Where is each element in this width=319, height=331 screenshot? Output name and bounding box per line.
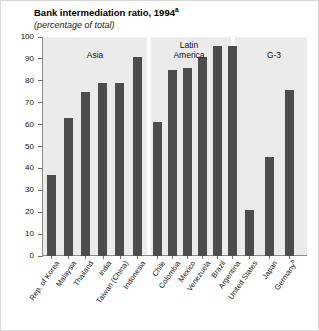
group-label-g3: G-3 <box>241 50 307 60</box>
x-axis-tick-mark <box>51 256 52 259</box>
bar <box>213 46 222 256</box>
y-axis-tick-label: 40 <box>25 163 34 173</box>
bar <box>265 157 274 256</box>
y-axis-tick-mark <box>38 80 43 81</box>
y-axis-tick-mark <box>38 124 43 125</box>
y-axis-tick-mark <box>38 168 43 169</box>
group-label-latin-america: Latin America <box>151 40 227 60</box>
bar <box>47 175 56 256</box>
bar <box>228 46 237 256</box>
chart-title: Bank intermediation ratio, 1994a <box>34 7 304 19</box>
x-axis-tick-mark <box>85 256 86 259</box>
chart-figure: Bank intermediation ratio, 1994a (percen… <box>0 0 319 331</box>
y-axis-tick-label: 80 <box>25 76 34 86</box>
x-axis-tick-mark <box>232 256 233 259</box>
y-axis-tick-label: 20 <box>25 207 34 217</box>
bar <box>198 57 207 256</box>
x-axis-tick-mark <box>172 256 173 259</box>
group-label-asia: Asia <box>43 50 147 60</box>
x-axis-tick-mark <box>269 256 270 259</box>
y-axis-tick-mark <box>38 146 43 147</box>
x-axis-tick-mark <box>217 256 218 259</box>
y-axis-tick: 0 <box>1 251 43 261</box>
bar <box>98 83 107 256</box>
y-axis-tick-mark <box>38 234 43 235</box>
chart-title-footnote-marker: a <box>175 6 179 13</box>
y-axis-tick-label: 60 <box>25 120 34 130</box>
y-axis-tick-label: 30 <box>25 185 34 195</box>
bar <box>115 83 124 256</box>
title-block: Bank intermediation ratio, 1994a (percen… <box>34 7 304 31</box>
y-axis-tick-mark <box>38 37 43 38</box>
bar <box>183 68 192 256</box>
y-axis-tick: 60 <box>1 120 43 130</box>
y-axis-tick-label: 90 <box>25 54 34 64</box>
x-axis-category-label: Japan <box>260 259 279 281</box>
y-axis-tick: 10 <box>1 229 43 239</box>
bar <box>153 122 162 256</box>
y-axis-tick-mark <box>38 190 43 191</box>
y-axis-tick: 40 <box>1 163 43 173</box>
chart-title-text: Bank intermediation ratio, 1994 <box>34 7 175 18</box>
bar <box>168 70 177 256</box>
x-axis-tick-mark <box>120 256 121 259</box>
bar <box>285 90 294 256</box>
y-axis-tick: 30 <box>1 185 43 195</box>
group-separator-asia-latin <box>147 37 151 256</box>
y-axis-tick: 80 <box>1 76 43 86</box>
x-axis-tick-mark <box>103 256 104 259</box>
y-axis-tick-mark <box>38 102 43 103</box>
y-axis-tick-label: 70 <box>25 98 34 108</box>
y-axis-tick: 70 <box>1 98 43 108</box>
chart-subtitle: (percentage of total) <box>34 19 304 31</box>
y-axis-tick-mark <box>38 256 43 257</box>
y-axis-tick: 20 <box>1 207 43 217</box>
bar <box>245 210 254 256</box>
x-axis-tick-mark <box>187 256 188 259</box>
bar <box>133 57 142 256</box>
x-axis-tick-mark <box>249 256 250 259</box>
y-axis-tick-label: 100 <box>21 32 34 42</box>
y-axis-tick-label: 10 <box>25 229 34 239</box>
x-axis-tick-mark <box>202 256 203 259</box>
bar <box>81 92 90 256</box>
y-axis-tick: 100 <box>1 32 43 42</box>
bar <box>64 118 73 256</box>
y-axis-tick: 50 <box>1 142 43 152</box>
x-axis-tick-mark <box>157 256 158 259</box>
x-axis-tick-mark <box>137 256 138 259</box>
y-axis-tick-mark <box>38 212 43 213</box>
y-axis-tick-label: 0 <box>30 251 34 261</box>
y-axis-tick: 90 <box>1 54 43 64</box>
y-axis-tick-label: 50 <box>25 142 34 152</box>
x-axis-tick-mark <box>68 256 69 259</box>
